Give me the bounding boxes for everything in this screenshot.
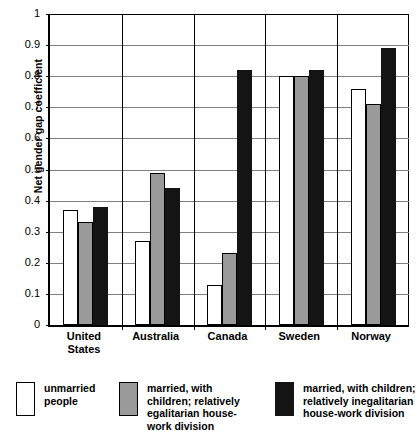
- y-axis-tick: [46, 45, 50, 46]
- category-separator: [122, 14, 123, 325]
- legend-label: unmarried people: [44, 382, 95, 407]
- black-swatch: [275, 382, 294, 416]
- y-axis-tick-label: 0.3: [0, 225, 40, 237]
- y-axis-tick: [46, 325, 50, 326]
- bar: [165, 188, 180, 325]
- y-axis-tick-label: 0.7: [0, 100, 40, 112]
- y-axis-tick-label: 0.2: [0, 256, 40, 268]
- y-axis-tick: [46, 107, 50, 108]
- x-axis-category-label: Norway: [335, 330, 407, 343]
- gray-swatch: [119, 382, 138, 416]
- bar: [78, 222, 93, 325]
- plot-area: 00.10.20.30.40.50.60.70.80.91: [48, 14, 409, 327]
- y-axis-tick: [46, 14, 50, 15]
- bar: [366, 104, 381, 325]
- y-axis-tick: [46, 294, 50, 295]
- gridline: [50, 45, 409, 46]
- plot-inner: 00.10.20.30.40.50.60.70.80.91: [50, 14, 409, 325]
- bar: [135, 241, 150, 325]
- y-axis-tick: [46, 201, 50, 202]
- bar: [150, 173, 165, 325]
- legend-label: married, with children; relatively inega…: [303, 382, 416, 420]
- bar: [294, 76, 309, 325]
- bar: [222, 253, 237, 325]
- category-separator: [194, 14, 195, 325]
- y-axis-tick-label: 0.1: [0, 287, 40, 299]
- y-axis-tick-label: 0.9: [0, 38, 40, 50]
- gridline: [50, 76, 409, 77]
- y-axis-tick: [46, 232, 50, 233]
- bar: [237, 70, 252, 325]
- y-axis-tick: [46, 170, 50, 171]
- category-separator: [337, 14, 338, 325]
- bar: [207, 285, 222, 325]
- legend-item: married, with children; relatively inega…: [275, 382, 416, 420]
- x-axis-category-labels: United StatesAustraliaCanadaSwedenNorway: [48, 330, 407, 374]
- y-axis-tick-label: 0.4: [0, 194, 40, 206]
- bar: [279, 76, 294, 325]
- bar: [309, 70, 324, 325]
- legend-label: married, with children; relatively egali…: [147, 382, 240, 432]
- bar: [63, 210, 78, 325]
- x-axis-category-label: Sweden: [263, 330, 335, 343]
- y-axis-tick: [46, 138, 50, 139]
- y-axis-tick: [46, 263, 50, 264]
- x-axis-category-label: Canada: [192, 330, 264, 343]
- legend-item: married, with children; relatively egali…: [119, 382, 240, 432]
- y-axis-tick-label: 0: [0, 318, 40, 330]
- category-separator: [265, 14, 266, 325]
- y-axis-tick-label: 0.5: [0, 163, 40, 175]
- bar: [381, 48, 396, 325]
- legend-item: unmarried people: [16, 382, 95, 416]
- bar: [93, 207, 108, 325]
- y-axis-tick-label: 1: [0, 7, 40, 19]
- y-axis-tick: [46, 76, 50, 77]
- chart-legend: unmarried peoplemarried, with children; …: [0, 382, 420, 443]
- bar-chart: Net gender gap coefficient 00.10.20.30.4…: [0, 0, 420, 443]
- x-axis-category-label: Australia: [120, 330, 192, 343]
- y-axis-tick-label: 0.8: [0, 69, 40, 81]
- white-swatch: [16, 382, 35, 416]
- y-axis-tick-label: 0.6: [0, 131, 40, 143]
- bar: [351, 89, 366, 325]
- x-axis-category-label: United States: [48, 330, 120, 356]
